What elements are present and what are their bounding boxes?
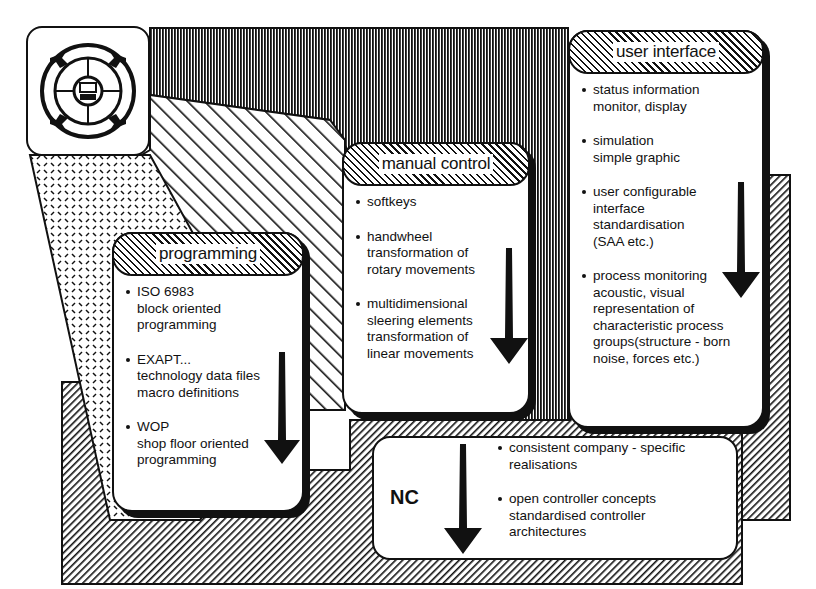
user-interface-header: user interface: [568, 30, 764, 74]
user-interface-box: user interface status information monito…: [568, 30, 764, 428]
programming-header: programming: [112, 232, 304, 276]
diagram-canvas: programming ISO 6983 block oriented prog…: [0, 0, 816, 589]
nc-items: consistent company - specific realisatio…: [496, 440, 730, 559]
list-item: status information monitor, display: [580, 82, 756, 115]
nc-box: NC consistent company - specific realisa…: [372, 436, 738, 560]
down-arrow-icon: [264, 352, 300, 467]
down-arrow-icon: [490, 248, 528, 366]
controller-dial-icon: [28, 28, 148, 154]
controller-icon-tile: [26, 26, 150, 156]
list-item: ISO 6983 block oriented programming: [124, 284, 296, 334]
list-item: open controller concepts standardised co…: [496, 491, 730, 541]
manual-control-header: manual control: [342, 142, 530, 186]
user-interface-title: user interface: [613, 42, 719, 62]
down-arrow-icon: [722, 182, 760, 300]
programming-box: programming ISO 6983 block oriented prog…: [112, 232, 304, 512]
list-item: consistent company - specific realisatio…: [496, 440, 730, 473]
list-item: simulation simple graphic: [580, 133, 756, 166]
manual-control-box: manual control softkeys handwheel transf…: [342, 142, 530, 414]
programming-title: programming: [156, 244, 260, 264]
list-item: softkeys: [354, 194, 522, 211]
nc-label: NC: [390, 486, 419, 509]
manual-control-title: manual control: [379, 154, 494, 174]
down-arrow-icon: [444, 444, 482, 556]
